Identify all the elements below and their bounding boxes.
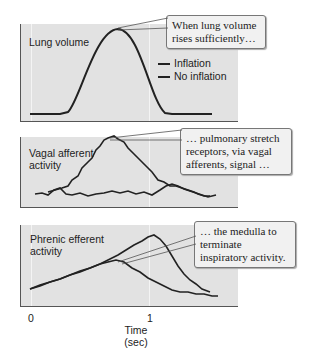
- phrenic-inflation-trace: [30, 260, 218, 296]
- x-tick-0: 0: [28, 312, 34, 324]
- callout-pointer-2: [110, 130, 182, 140]
- axis-title-line1: Time: [116, 324, 156, 336]
- traces: [0, 0, 309, 354]
- lung-volume-trace: [30, 29, 212, 114]
- callout-pointer-3: [118, 236, 196, 264]
- axis-title-line2: (sec): [116, 336, 156, 348]
- vagal-inflation-trace: [48, 136, 210, 196]
- phrenic-no-inflation-trace: [30, 235, 210, 292]
- x-axis-title: Time (sec): [116, 324, 156, 348]
- callout-pointer-1: [118, 18, 168, 30]
- x-tick-1: 1: [147, 312, 153, 324]
- vagal-no-inflation-trace: [35, 184, 216, 197]
